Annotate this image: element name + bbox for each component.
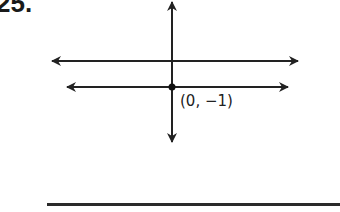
point-label: (0, −1) (180, 92, 233, 110)
intersection-point (169, 84, 176, 91)
graph-diagram (0, 0, 340, 212)
answer-blank-line[interactable] (47, 203, 340, 206)
